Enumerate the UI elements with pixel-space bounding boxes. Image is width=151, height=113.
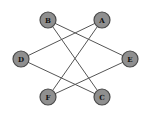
node-d: D [13,51,29,67]
node-label-a: A [98,16,105,25]
node-label-c: C [99,93,105,102]
node-label-b: B [45,16,51,25]
node-b: B [40,12,56,28]
node-a: A [94,12,110,28]
graph-diagram: B A D E F C [0,0,151,113]
node-label-d: D [18,55,24,64]
node-f: F [40,89,56,105]
node-label-e: E [127,55,132,64]
node-c: C [94,89,110,105]
edges [21,20,130,97]
node-e: E [122,51,138,67]
node-label-f: F [46,93,51,102]
